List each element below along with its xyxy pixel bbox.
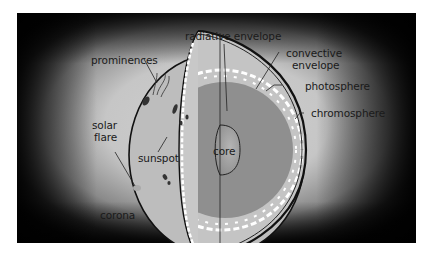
- label-corona: corona: [100, 209, 135, 221]
- sun-structure-diagram: radiative envelope convective envelope p…: [17, 13, 416, 243]
- solar-flare-shape: [133, 185, 141, 191]
- label-solar-flare-line1: solar: [92, 119, 117, 131]
- label-photosphere: photosphere: [305, 80, 370, 92]
- label-convective-envelope-line1: convective: [286, 47, 342, 59]
- label-prominences: prominences: [91, 54, 158, 66]
- label-sunspot: sunspot: [138, 152, 179, 164]
- label-chromosphere: chromosphere: [311, 107, 385, 119]
- label-solar-flare-line2: flare: [94, 131, 117, 143]
- sun-illustration: [17, 13, 416, 243]
- label-core: core: [213, 145, 235, 157]
- label-radiative-envelope: radiative envelope: [185, 30, 281, 42]
- label-convective-envelope-line2: envelope: [292, 59, 339, 71]
